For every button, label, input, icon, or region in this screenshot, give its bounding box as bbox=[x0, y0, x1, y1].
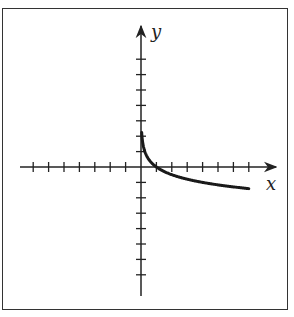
y-axis-label: y bbox=[150, 21, 162, 42]
data-curve bbox=[142, 133, 249, 189]
chart-plot: x y bbox=[0, 0, 294, 317]
x-axis-label: x bbox=[266, 173, 276, 194]
